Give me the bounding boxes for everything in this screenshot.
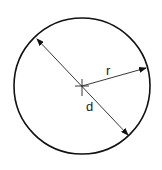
- diameter-arrow: [37, 39, 128, 135]
- diameter-label: d: [86, 99, 93, 114]
- radius-arrow: [82, 68, 146, 86]
- radius-label: r: [106, 63, 111, 78]
- circle-diagram: r d: [0, 0, 162, 170]
